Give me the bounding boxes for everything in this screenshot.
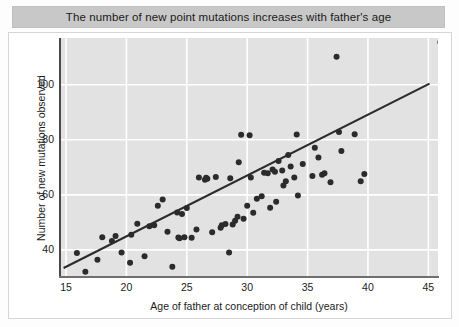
data-point xyxy=(358,178,364,184)
data-point xyxy=(315,154,321,160)
data-point xyxy=(238,132,244,138)
data-point xyxy=(142,253,148,259)
data-point xyxy=(279,168,285,174)
x-tick-label: 25 xyxy=(170,281,204,293)
data-point xyxy=(361,171,367,177)
data-point xyxy=(250,210,256,216)
y-axis-spine xyxy=(59,38,61,277)
data-point xyxy=(213,174,219,180)
page-title: The number of new point mutations increa… xyxy=(66,11,391,23)
data-point xyxy=(294,132,300,138)
data-point xyxy=(189,235,195,241)
data-point xyxy=(272,169,278,175)
data-point xyxy=(99,234,105,240)
x-axis-title: Age of father at conception of child (ye… xyxy=(60,300,438,312)
data-point xyxy=(244,203,250,209)
plot-area xyxy=(60,38,438,276)
data-point xyxy=(160,197,166,203)
data-point xyxy=(241,216,247,222)
x-tick-label: 45 xyxy=(411,281,445,293)
scatter-plot-svg xyxy=(60,38,438,276)
x-tick-label: 35 xyxy=(291,281,325,293)
y-axis-title: Number of new mutations observed xyxy=(35,39,47,277)
data-point xyxy=(338,148,344,154)
data-point xyxy=(328,179,334,185)
data-point xyxy=(273,199,279,205)
data-point xyxy=(82,269,88,275)
data-point xyxy=(94,257,100,263)
data-point xyxy=(283,178,289,184)
data-point xyxy=(352,131,358,137)
data-point xyxy=(127,260,133,266)
data-point xyxy=(164,229,170,235)
data-point xyxy=(74,250,80,256)
data-point xyxy=(179,211,185,217)
data-point xyxy=(312,145,318,151)
x-axis-spine xyxy=(59,276,439,278)
data-point xyxy=(291,174,297,180)
data-point xyxy=(235,214,241,220)
data-point xyxy=(222,221,228,227)
data-point xyxy=(227,175,233,181)
data-point xyxy=(334,54,340,60)
data-point xyxy=(181,234,187,240)
data-point xyxy=(134,221,140,227)
data-point xyxy=(113,233,119,239)
data-point xyxy=(119,250,125,256)
data-point xyxy=(288,163,294,169)
data-point xyxy=(196,174,202,180)
data-point xyxy=(437,39,438,45)
data-point xyxy=(209,229,215,235)
x-tick-label: 40 xyxy=(351,281,385,293)
data-point xyxy=(236,159,242,165)
x-tick-label: 30 xyxy=(230,281,264,293)
data-point xyxy=(265,170,271,176)
data-point xyxy=(321,170,327,176)
data-point xyxy=(300,161,306,167)
data-point xyxy=(204,176,210,182)
data-point xyxy=(247,132,253,138)
data-point xyxy=(267,205,273,211)
data-points-layer xyxy=(74,39,438,275)
data-point xyxy=(259,193,265,199)
data-point xyxy=(169,264,175,270)
x-tick-label: 15 xyxy=(49,281,83,293)
data-point xyxy=(309,173,315,179)
data-point xyxy=(295,192,301,198)
chart-title-banner: The number of new point mutations increa… xyxy=(12,6,445,28)
chart-figure: The number of new point mutations increa… xyxy=(0,0,459,327)
x-tick-label: 20 xyxy=(109,281,143,293)
data-point xyxy=(193,227,199,233)
data-point xyxy=(155,203,161,209)
data-point xyxy=(226,250,232,256)
